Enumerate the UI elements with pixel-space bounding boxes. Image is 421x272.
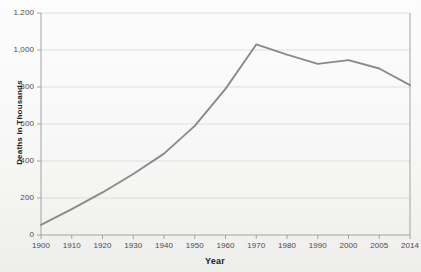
y-tick-label-0: 0 xyxy=(0,230,34,239)
x-tick-label-2000: 2000 xyxy=(332,241,366,250)
x-tick-label-1910: 1910 xyxy=(55,241,89,250)
y-tick-marks xyxy=(37,13,41,235)
x-tick-label-1900: 1900 xyxy=(24,241,58,250)
x-tick-label-1990: 1990 xyxy=(301,241,335,250)
y-axis-title: Deaths in Thousands xyxy=(15,73,24,173)
x-tick-label-1940: 1940 xyxy=(147,241,181,250)
x-tick-label-1980: 1980 xyxy=(270,241,304,250)
y-tick-label-1000: 1,000 xyxy=(0,45,34,54)
x-tick-label-1950: 1950 xyxy=(178,241,212,250)
x-tick-label-1970: 1970 xyxy=(239,241,273,250)
x-tick-label-1960: 1960 xyxy=(209,241,243,250)
chart-container: 1.200 1,000 800 600 400 200 0 1900191019… xyxy=(0,0,421,272)
x-tick-marks xyxy=(41,235,410,239)
y-tick-label-200: 200 xyxy=(0,193,34,202)
gridlines-group xyxy=(41,13,410,198)
x-tick-label-1920: 1920 xyxy=(86,241,120,250)
x-tick-label-2005: 2005 xyxy=(362,241,396,250)
line-chart-plot xyxy=(0,0,421,272)
y-tick-label-1200: 1.200 xyxy=(0,8,34,17)
x-tick-label-2014: 2014 xyxy=(393,241,421,250)
x-axis-title: Year xyxy=(185,256,245,266)
x-tick-label-1930: 1930 xyxy=(116,241,150,250)
